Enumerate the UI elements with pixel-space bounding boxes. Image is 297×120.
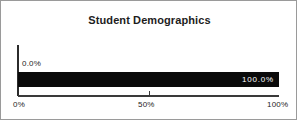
x-axis-tick-label-50: 50% <box>138 100 155 109</box>
chart-title: Student Demographics <box>1 14 297 26</box>
x-axis-tick-label-0: 0% <box>13 100 25 109</box>
x-axis-tick-mark <box>149 91 150 95</box>
y-axis-line <box>17 45 19 96</box>
x-axis-line <box>18 95 279 97</box>
bar-value-label: 100.0% <box>242 72 274 87</box>
x-axis-tick-label-100: 100% <box>267 100 288 109</box>
chart-container: Student Demographics 0.0% 100.0% 0% 50% … <box>0 0 297 120</box>
baseline-value-label: 0.0% <box>22 59 41 68</box>
data-bar[interactable]: 100.0% <box>18 72 279 87</box>
